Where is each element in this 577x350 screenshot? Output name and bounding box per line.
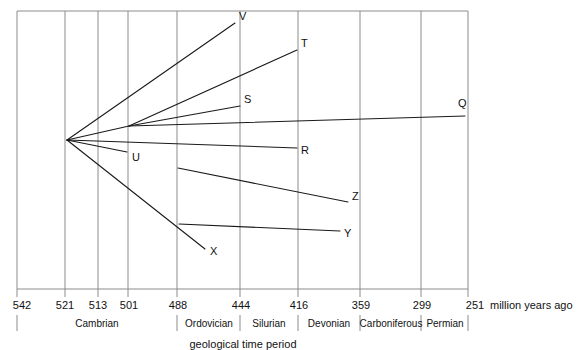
branch-Q [129, 116, 465, 126]
branch-Z [178, 168, 348, 202]
plot-box [17, 11, 468, 289]
tip-label-Z: Z [352, 190, 359, 202]
tick-label-251: 251 [466, 299, 484, 311]
tip-label-X: X [210, 245, 218, 257]
period-label-permian: Permian [426, 318, 463, 329]
chart-canvas: V T S Q R U Z Y X 542 521 513 [0, 0, 577, 350]
axis-tickmarks [17, 289, 468, 297]
tick-label-359: 359 [352, 299, 370, 311]
tip-labels: V T S Q R U Z Y X [132, 10, 467, 257]
period-labels: Cambrian Ordovician Silurian Devonian Ca… [75, 318, 463, 329]
tick-label-513: 513 [89, 299, 107, 311]
axis-units-label: million years ago [490, 299, 573, 311]
period-label-ordovician: Ordovician [185, 318, 233, 329]
tip-label-V: V [239, 10, 247, 22]
branch-Y [179, 224, 340, 231]
period-label-carboniferous: Carboniferous [360, 318, 423, 329]
tick-label-501: 501 [120, 299, 138, 311]
phylogenetic-chart-figure: V T S Q R U Z Y X 542 521 513 [0, 0, 577, 350]
tick-label-521: 521 [56, 299, 74, 311]
period-label-devonian: Devonian [308, 318, 350, 329]
tick-label-299: 299 [413, 299, 431, 311]
period-label-silurian: Silurian [252, 318, 285, 329]
tick-label-416: 416 [290, 299, 308, 311]
axis-title: geological time period [189, 338, 296, 350]
tick-label-444: 444 [232, 299, 250, 311]
axis-tick-labels: 542 521 513 501 488 444 416 359 299 251 … [13, 299, 573, 311]
tip-label-Q: Q [458, 97, 467, 109]
branch-T [129, 50, 297, 126]
period-label-cambrian: Cambrian [75, 318, 118, 329]
tip-label-S: S [244, 93, 251, 105]
tick-label-542: 542 [13, 299, 31, 311]
tip-label-U: U [132, 151, 140, 163]
tip-label-R: R [301, 144, 309, 156]
tip-label-T: T [301, 37, 308, 49]
tip-label-Y: Y [344, 227, 352, 239]
tree-branches [67, 23, 465, 249]
tick-label-488: 488 [169, 299, 187, 311]
